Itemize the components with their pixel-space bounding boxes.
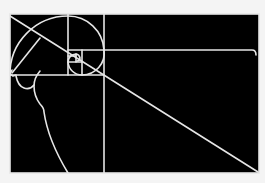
golden-ratio-diagram: [0, 0, 265, 183]
